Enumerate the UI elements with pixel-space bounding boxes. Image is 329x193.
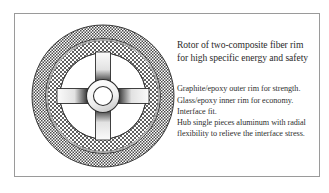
caption-detail-line-4: Hub single pieces aluminum with radial	[177, 117, 321, 128]
caption-detail-line-5: flexibility to relieve the interface str…	[177, 128, 321, 139]
figure-root: Rotor of two-composite fiber rim for hig…	[0, 0, 329, 193]
caption-title-line-1: Rotor of two-composite fiber rim	[177, 38, 321, 51]
spoke-left	[57, 89, 89, 104]
caption-detail-line-1: Graphite/epoxy outer rim for strength.	[177, 83, 321, 94]
caption-detail-line-3: Interface fit.	[177, 106, 321, 117]
caption-column: Rotor of two-composite fiber rim for hig…	[177, 38, 321, 139]
spoke-right	[117, 89, 149, 104]
rotor-cross-section-svg	[23, 18, 183, 174]
caption-title: Rotor of two-composite fiber rim for hig…	[177, 38, 321, 64]
figure-frame-border: Rotor of two-composite fiber rim for hig…	[14, 13, 320, 177]
hub-ring	[87, 80, 120, 113]
caption-details: Graphite/epoxy outer rim for strength. G…	[177, 83, 321, 138]
rotor-diagram	[23, 18, 183, 174]
caption-title-line-2: for high specific energy and safety	[177, 51, 321, 64]
hub-bore	[94, 87, 113, 106]
caption-detail-line-2: Glass/epoxy inner rim for economy.	[177, 95, 321, 106]
